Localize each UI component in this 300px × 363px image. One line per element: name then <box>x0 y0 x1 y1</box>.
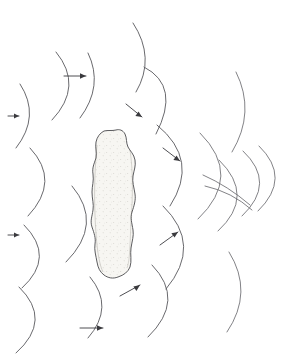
obstacle-shape <box>91 130 135 278</box>
wave-diffraction-figure <box>0 0 300 363</box>
obstacle-texture <box>94 131 134 276</box>
figure-root <box>0 0 300 363</box>
